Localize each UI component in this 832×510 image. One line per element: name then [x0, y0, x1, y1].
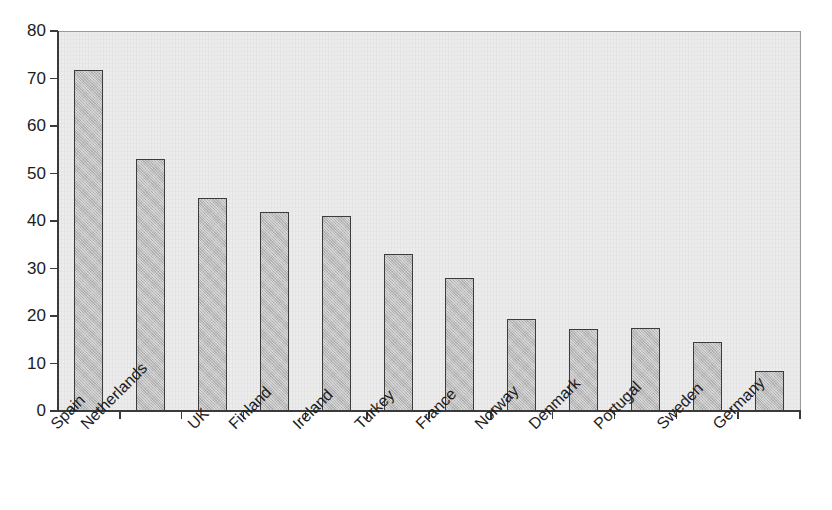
y-axis-tick-label: 0: [2, 402, 46, 419]
bar: [198, 198, 227, 412]
bar: [631, 328, 660, 412]
x-axis-tick: [799, 411, 801, 419]
y-axis-tick: [50, 220, 58, 222]
y-axis-tick: [50, 30, 58, 32]
plot-area: [58, 31, 801, 412]
y-axis-tick: [50, 268, 58, 270]
bar: [569, 329, 598, 412]
bar: [74, 70, 103, 412]
y-axis-tick: [50, 125, 58, 127]
bar: [693, 342, 722, 412]
bar: [322, 216, 351, 412]
y-axis-labels: 01020304050607080: [0, 0, 46, 510]
y-axis-tick: [50, 78, 58, 80]
x-axis-tick: [181, 411, 183, 419]
y-axis-tick: [50, 315, 58, 317]
x-axis-tick: [119, 411, 121, 419]
x-axis-category-label: Spain: [48, 392, 88, 432]
y-axis-tick: [50, 173, 58, 175]
y-axis-tick-label: 20: [2, 307, 46, 324]
y-axis-tick-label: 50: [2, 165, 46, 182]
bar: [260, 212, 289, 412]
y-axis-tick-label: 60: [2, 117, 46, 134]
y-axis-tick-label: 40: [2, 212, 46, 229]
y-axis-tick-label: 10: [2, 355, 46, 372]
y-axis-tick-label: 30: [2, 260, 46, 277]
y-axis-tick-label: 70: [2, 70, 46, 87]
bar-chart: 01020304050607080 SpainNetherlandsUKFinl…: [0, 0, 832, 510]
y-axis-tick-label: 80: [2, 22, 46, 39]
paper-texture: [58, 32, 800, 412]
y-axis-tick: [50, 363, 58, 365]
